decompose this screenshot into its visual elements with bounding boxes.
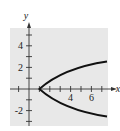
chart: 4 6 4 2 -2 y x <box>0 0 120 131</box>
y-axis-label: y <box>23 10 29 21</box>
x-axis-label: x <box>115 83 120 94</box>
y-axis-arrow-icon <box>27 22 31 28</box>
x-tick-label-4: 4 <box>68 92 73 103</box>
y-tick-label-4: 4 <box>18 40 23 51</box>
plot-area <box>10 28 108 126</box>
x-tick-label-6: 6 <box>89 92 94 103</box>
y-tick-label-neg2: -2 <box>15 105 23 116</box>
y-tick-label-2: 2 <box>18 62 23 73</box>
